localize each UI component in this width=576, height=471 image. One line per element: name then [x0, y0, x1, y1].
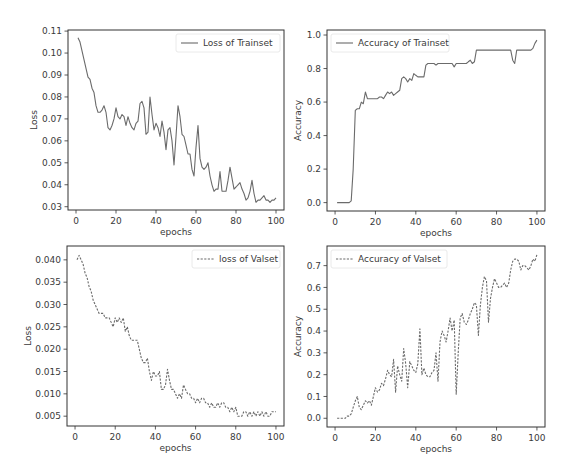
x-tick-label: 40	[410, 217, 422, 227]
y-tick-label: 0.035	[35, 277, 61, 287]
legend: Accuracy of Trainset	[331, 34, 449, 52]
y-tick-label: 0.8	[307, 64, 322, 74]
plot-frame	[327, 246, 545, 427]
x-axis-label: epochs	[159, 443, 191, 453]
x-tick-label: 80	[491, 217, 503, 227]
x-tick-label: 40	[150, 432, 162, 442]
x-axis: 020406080100epochs	[332, 211, 546, 238]
y-tick-label: 0.1	[307, 392, 321, 402]
y-tick-label: 0.3	[307, 348, 321, 358]
y-tick-label: 0.030	[35, 300, 61, 310]
y-axis: 0.030.040.050.060.070.080.090.100.11Loss	[29, 26, 68, 212]
x-tick-label: 60	[450, 217, 462, 227]
x-tick-label: 40	[150, 216, 162, 226]
y-tick-label: 0.11	[42, 26, 62, 36]
x-tick-label: 0	[332, 217, 338, 227]
legend: Accuracy of Valset	[331, 250, 447, 268]
x-tick-label: 20	[110, 216, 122, 226]
y-tick-label: 0.6	[307, 97, 322, 107]
x-tick-label: 100	[528, 217, 545, 227]
y-tick-label: 0.6	[307, 283, 322, 293]
y-axis: 0.00.20.40.60.81.0Accuracy	[293, 30, 327, 208]
y-tick-label: 1.0	[307, 30, 322, 40]
y-tick-label: 0.005	[35, 411, 61, 421]
x-tick-label: 80	[230, 216, 242, 226]
y-tick-label: 0.08	[42, 92, 62, 102]
y-tick-label: 0.06	[42, 136, 62, 146]
chart-panel-train_loss: 020406080100epochs0.030.040.050.060.070.…	[29, 26, 285, 237]
x-tick-label: 60	[450, 433, 462, 443]
x-tick-label: 0	[72, 432, 78, 442]
y-tick-label: 0.5	[307, 304, 321, 314]
x-axis-label: epochs	[420, 228, 452, 238]
y-axis: 0.00.10.20.30.40.50.60.7Accuracy	[293, 261, 327, 424]
y-tick-label: 0.040	[35, 255, 61, 265]
series-line	[337, 255, 537, 419]
y-tick-label: 0.03	[42, 202, 62, 212]
series-line	[337, 40, 537, 203]
y-tick-label: 0.020	[35, 344, 61, 354]
figure-svg: 020406080100epochs0.030.040.050.060.070.…	[0, 0, 576, 471]
x-tick-label: 100	[267, 432, 284, 442]
x-axis: 020406080100epochs	[332, 427, 546, 454]
x-tick-label: 100	[267, 216, 284, 226]
legend: Loss of Trainset	[176, 34, 280, 52]
x-tick-label: 80	[491, 433, 503, 443]
x-tick-label: 100	[528, 433, 545, 443]
y-axis: 0.0050.0100.0150.0200.0250.0300.0350.040…	[23, 255, 67, 421]
y-tick-label: 0.4	[307, 326, 322, 336]
x-axis: 020406080100epochs	[72, 426, 285, 453]
y-axis-label: Accuracy	[293, 99, 303, 141]
x-tick-label: 40	[410, 433, 422, 443]
x-tick-label: 80	[230, 432, 242, 442]
chart-panel-val_acc: 020406080100epochs0.00.10.20.30.40.50.60…	[293, 246, 545, 454]
y-tick-label: 0.015	[35, 367, 61, 377]
series-line	[78, 38, 276, 203]
x-tick-label: 60	[190, 216, 202, 226]
x-tick-label: 20	[370, 433, 382, 443]
legend: loss of Valset	[192, 250, 280, 268]
plot-frame	[67, 246, 284, 426]
x-tick-label: 20	[370, 217, 382, 227]
y-axis-label: Accuracy	[293, 315, 303, 357]
y-tick-label: 0.025	[35, 322, 61, 332]
y-tick-label: 0.4	[307, 131, 322, 141]
x-tick-label: 60	[190, 432, 202, 442]
x-tick-label: 0	[73, 216, 79, 226]
y-tick-label: 0.09	[42, 70, 62, 80]
x-axis: 020406080100epochs	[73, 210, 285, 237]
y-axis-label: Loss	[23, 326, 33, 346]
y-axis-label: Loss	[29, 110, 39, 130]
y-tick-label: 0.2	[307, 370, 321, 380]
x-axis-label: epochs	[160, 227, 192, 237]
y-tick-label: 0.2	[307, 164, 321, 174]
y-tick-label: 0.7	[307, 261, 321, 271]
chart-panel-val_loss: 020406080100epochs0.0050.0100.0150.0200.…	[23, 246, 285, 453]
y-tick-label: 0.10	[42, 48, 62, 58]
x-axis-label: epochs	[420, 444, 452, 454]
x-tick-label: 20	[109, 432, 121, 442]
y-tick-label: 0.04	[42, 180, 62, 190]
legend-label: loss of Valset	[219, 254, 278, 264]
y-tick-label: 0.0	[307, 198, 322, 208]
y-tick-label: 0.0	[307, 413, 322, 423]
y-tick-label: 0.07	[42, 114, 62, 124]
series-line	[77, 255, 276, 416]
x-tick-label: 0	[332, 433, 338, 443]
y-tick-label: 0.05	[42, 158, 62, 168]
legend-label: Accuracy of Valset	[358, 254, 441, 264]
y-tick-label: 0.010	[35, 389, 61, 399]
chart-panel-train_acc: 020406080100epochs0.00.20.40.60.81.0Accu…	[293, 30, 545, 238]
legend-label: Accuracy of Trainset	[358, 38, 449, 48]
legend-label: Loss of Trainset	[203, 38, 273, 48]
training-curves-figure: 020406080100epochs0.030.040.050.060.070.…	[0, 0, 576, 471]
